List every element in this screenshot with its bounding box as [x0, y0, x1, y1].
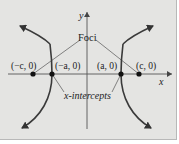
intercepts-leader-left: [52, 74, 64, 92]
focus-left-point: [30, 71, 35, 76]
label-pos-c: (c, 0): [136, 61, 156, 72]
intercepts-leader-right: [112, 74, 121, 92]
hyperbola-right-branch-top: [123, 26, 153, 44]
hyperbola-left-branch-top: [20, 26, 50, 44]
x-axis-label: x: [158, 76, 164, 87]
focus-right-point: [136, 71, 141, 76]
diagram-panel: x y (−c, 0) (−a, 0) (a, 0) (c, 0) Foci x…: [0, 0, 177, 140]
hyperbola-right-branch: [121, 44, 151, 128]
hyperbola-left-branch: [22, 44, 52, 128]
y-axis-label: y: [78, 10, 84, 21]
foci-label: Foci: [78, 32, 97, 43]
vertex-left-point: [49, 71, 54, 76]
label-neg-a: (−a, 0): [55, 61, 80, 72]
x-intercepts-label: x-intercepts: [63, 90, 111, 101]
label-pos-a: (a, 0): [97, 61, 117, 72]
label-neg-c: (−c, 0): [11, 61, 36, 72]
vertex-right-point: [118, 71, 123, 76]
hyperbola-diagram: x y (−c, 0) (−a, 0) (a, 0) (c, 0) Foci x…: [0, 0, 179, 144]
